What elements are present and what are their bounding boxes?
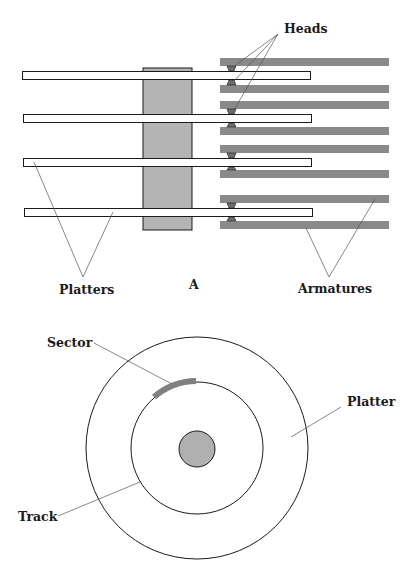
armature [220,170,389,178]
hub [179,431,215,467]
head [227,153,236,158]
top-view-diagram: Sector Platter Track [18,335,396,559]
armature [220,127,389,135]
head [227,217,236,221]
armature [220,58,389,66]
platter [24,115,312,123]
armature [220,145,389,153]
track-label: Track [18,509,58,524]
figure-letter-label: A [188,277,199,292]
armature [220,85,389,93]
platter [25,209,313,217]
disk-drive-diagram: Heads Platters A Armatures Sector Platte… [0,0,414,574]
platters-leader [83,212,113,277]
head [227,167,236,170]
platters-leader [34,162,83,277]
leader-lines [34,34,375,277]
sector-label: Sector [47,335,93,350]
platters-label: Platters [59,282,114,297]
heads-label: Heads [284,21,328,36]
side-view-diagram: Heads Platters A Armatures [23,21,390,297]
platter [23,72,311,80]
armatures [220,58,389,229]
armature [220,221,389,229]
armatures-label: Armatures [297,281,372,296]
head [227,123,236,127]
platter-label: Platter [347,394,396,409]
head [227,66,236,71]
platter [24,159,312,167]
armatures-leader [329,199,375,277]
armature [220,195,389,203]
armatures-leader [306,228,329,277]
head [227,203,236,208]
spindle [143,68,192,230]
armature [220,101,389,109]
head [227,109,236,114]
